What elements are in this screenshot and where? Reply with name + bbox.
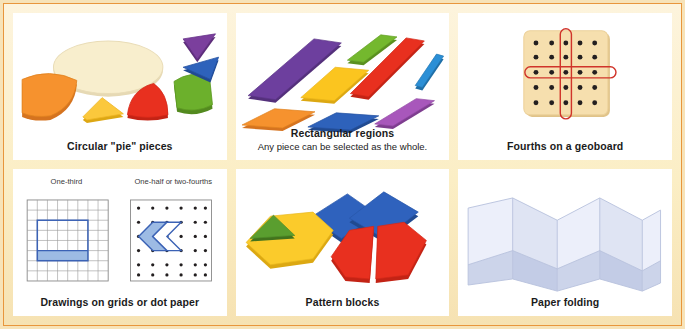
panel-caption: Drawings on grids or dot paper xyxy=(13,296,227,309)
twelfth-piece xyxy=(183,34,215,59)
panel-pattern-blocks: Pattern blocks xyxy=(236,169,450,316)
fold-panel-3 xyxy=(558,198,601,291)
panel-rectangular-regions: Rectangular regions Any piece can be sel… xyxy=(236,13,450,160)
fold-panel-2 xyxy=(513,198,558,291)
paper-folding-art xyxy=(458,169,672,316)
panel-caption: Pattern blocks xyxy=(236,296,450,309)
half-piece xyxy=(22,74,77,117)
panel-subcaption: Any piece can be selected as the whole. xyxy=(236,141,450,153)
geoboard-art xyxy=(458,13,672,160)
panel-caption: Fourths on a geoboard xyxy=(458,140,672,153)
fold-panel-1 xyxy=(468,198,513,285)
fractions-manipulatives-figure: Circular "pie" pieces xyxy=(0,0,685,329)
fold-panel-5 xyxy=(643,210,661,291)
panel-circular-pie-pieces: Circular "pie" pieces xyxy=(13,13,227,160)
grid-shaded-third xyxy=(37,251,88,261)
panel-caption: Circular "pie" pieces xyxy=(13,140,227,153)
fold-panel-4 xyxy=(600,198,643,291)
caption-wrap: Circular "pie" pieces xyxy=(13,140,227,160)
caption-wrap: Paper folding xyxy=(458,296,672,316)
panel-caption: Rectangular regions xyxy=(236,127,450,140)
panel-grid: Circular "pie" pieces xyxy=(13,13,672,316)
pattern-blocks-art xyxy=(236,169,450,316)
circular-pie-pieces-art xyxy=(13,13,227,160)
grid-and-dot-paper-art xyxy=(13,169,227,316)
caption-wrap: Fourths on a geoboard xyxy=(458,140,672,160)
mini-labels: One-third One-half or two-fourths xyxy=(13,177,227,186)
dot-drawing xyxy=(130,200,211,281)
caption-wrap: Drawings on grids or dot paper xyxy=(13,296,227,316)
bar-violet xyxy=(374,99,434,129)
panel-paper-folding: Paper folding xyxy=(458,169,672,316)
grid-drawing xyxy=(27,200,108,281)
panel-drawings-on-grids-or-dot-paper: One-third One-half or two-fourths xyxy=(13,169,227,316)
mini-label-one-half-or-two-fourths: One-half or two-fourths xyxy=(120,177,227,186)
panel-caption: Paper folding xyxy=(458,296,672,309)
caption-wrap: Pattern blocks xyxy=(236,296,450,316)
caption-wrap: Rectangular regions Any piece can be sel… xyxy=(236,127,450,160)
bar-blue-thin xyxy=(415,54,443,90)
panel-fourths-on-a-geoboard: Fourths on a geoboard xyxy=(458,13,672,160)
mini-label-one-third: One-third xyxy=(13,177,120,186)
trapezoid-red-right xyxy=(375,222,426,283)
